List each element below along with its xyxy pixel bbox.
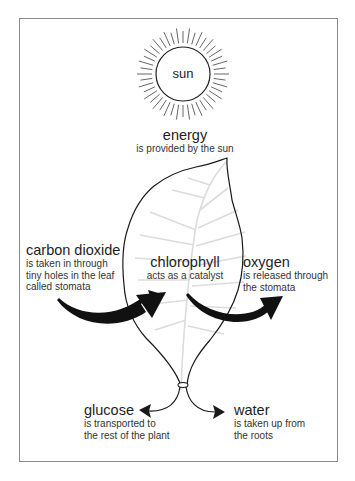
oxygen-label-group: oxygen is released through the stomata	[243, 255, 328, 293]
chlorophyll-desc: acts as a catalyst	[135, 270, 235, 282]
carbon-dioxide-title: carbon dioxide	[26, 243, 120, 258]
water-title: water	[234, 403, 305, 418]
oxygen-desc-1: is released through	[243, 270, 328, 282]
carbon-dioxide-desc-2: tiny holes in the leaf	[26, 270, 120, 282]
stem-ring	[178, 383, 188, 388]
carbon-dioxide-label-group: carbon dioxide is taken in through tiny …	[26, 243, 120, 293]
glucose-label-group: glucose is transported to the rest of th…	[84, 403, 170, 441]
glucose-desc-2: the rest of the plant	[84, 430, 170, 442]
energy-label-group: energy is provided by the sun	[110, 128, 260, 155]
chlorophyll-title: chlorophyll	[135, 255, 235, 270]
water-label-group: water is taken up from the roots	[234, 403, 305, 441]
energy-title: energy	[110, 128, 260, 143]
carbon-dioxide-desc-1: is taken in through	[26, 258, 120, 270]
glucose-title: glucose	[84, 403, 170, 418]
energy-desc: is provided by the sun	[110, 143, 260, 155]
glucose-desc-1: is transported to	[84, 418, 170, 430]
oxygen-title: oxygen	[243, 255, 328, 270]
water-stem-curve	[186, 387, 215, 412]
water-desc-1: is taken up from	[234, 418, 305, 430]
oxygen-desc-2: the stomata	[243, 282, 328, 294]
water-desc-2: the roots	[234, 430, 305, 442]
chlorophyll-label-group: chlorophyll acts as a catalyst	[135, 255, 235, 282]
sun-label: sun	[160, 66, 206, 81]
carbon-dioxide-desc-3: called stomata	[26, 281, 120, 293]
